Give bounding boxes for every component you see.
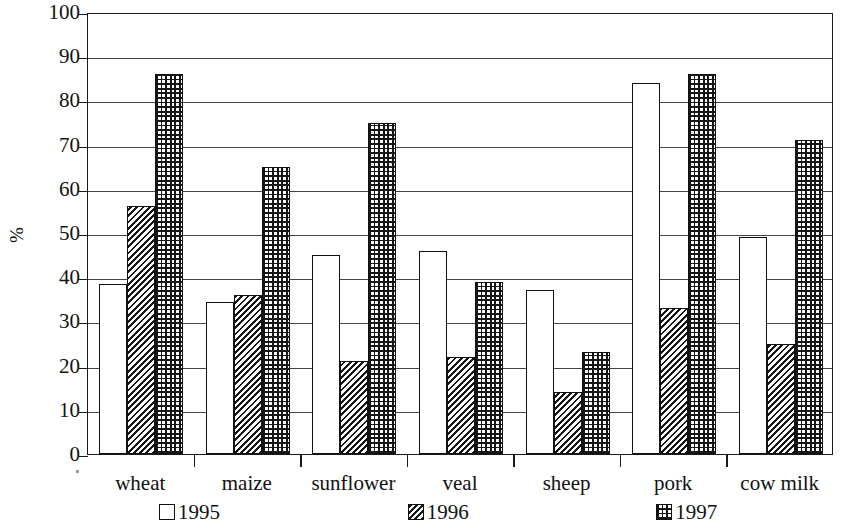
bar-sheep-1996	[554, 392, 582, 454]
y-axis-tick-labels: 1009080706050403020100	[24, 0, 80, 470]
bar-group	[408, 14, 515, 454]
bar-pork-1996	[660, 308, 688, 454]
bars-layer	[88, 14, 832, 454]
x-axis-label-cow-milk: cow milk	[714, 470, 845, 496]
legend-entry-1997[interactable]: 1997	[656, 500, 717, 524]
legend-entry-1996[interactable]: 1996	[408, 500, 469, 524]
y-axis-tick-mark	[79, 235, 88, 236]
y-axis-tick-label: 20	[24, 356, 80, 377]
bar-group	[621, 14, 728, 454]
bar-wheat-1996	[127, 206, 155, 454]
bar-chart: % 1009080706050403020100 wheatmaizesunfl…	[0, 0, 852, 528]
y-axis-tick-label: 80	[24, 90, 80, 111]
y-axis-tick-label: 0	[24, 444, 80, 465]
bar-sunflower-1997	[368, 123, 396, 455]
bar-pork-1997	[688, 74, 716, 454]
bar-cow-milk-1995	[739, 237, 767, 454]
bar-maize-1997	[262, 167, 290, 454]
y-axis-tick-mark	[79, 191, 88, 192]
bar-group	[727, 14, 834, 454]
bar-sunflower-1996	[340, 361, 368, 454]
y-axis-tick-label: 60	[24, 179, 80, 200]
bar-wheat-1995	[99, 284, 127, 454]
y-axis-tick-mark	[79, 368, 88, 369]
y-axis-tick-label: 10	[24, 400, 80, 421]
x-axis-separator	[407, 455, 408, 467]
y-axis-tick-label: 30	[24, 311, 80, 332]
legend-label: 1996	[427, 500, 469, 524]
y-axis-tick-mark	[79, 279, 88, 280]
y-axis-tick-mark	[79, 147, 88, 148]
y-axis-tick-mark	[79, 102, 88, 103]
scan-artifact-mark	[76, 470, 79, 473]
legend-label: 1997	[675, 500, 717, 524]
x-axis-separator	[300, 455, 301, 467]
bar-veal-1996	[447, 357, 475, 454]
plot-area	[87, 13, 833, 455]
bar-cow-milk-1996	[767, 344, 795, 455]
bar-wheat-1997	[155, 74, 183, 454]
legend-label: 1995	[178, 500, 220, 524]
x-axis-separator	[194, 455, 195, 467]
bar-group	[195, 14, 302, 454]
y-axis-tick-label: 90	[24, 46, 80, 67]
y-axis-tick-mark	[79, 323, 88, 324]
bar-veal-1997	[475, 282, 503, 454]
legend-entry-1995[interactable]: 1995	[159, 500, 220, 524]
bar-group	[514, 14, 621, 454]
bar-sheep-1995	[526, 290, 554, 454]
bar-pork-1995	[632, 83, 660, 454]
y-axis-tick-label: 70	[24, 135, 80, 156]
x-axis-category-labels: wheatmaizesunflowervealsheepporkcow milk	[87, 470, 852, 500]
bar-maize-1995	[206, 302, 234, 454]
y-axis-tick-label: 50	[24, 223, 80, 244]
y-axis-tick-mark	[79, 14, 88, 15]
x-axis-separator	[726, 455, 727, 467]
chart-legend: 199519961997	[87, 500, 833, 528]
bar-group	[88, 14, 195, 454]
y-axis-tick-mark	[79, 412, 88, 413]
x-axis-separator	[620, 455, 621, 467]
y-axis-tick-label: 100	[24, 2, 80, 23]
y-axis-tick-mark	[79, 58, 88, 59]
x-axis-separators	[87, 455, 833, 467]
bar-cow-milk-1997	[795, 140, 823, 454]
x-axis-separator	[513, 455, 514, 467]
y-axis-tick-label: 40	[24, 267, 80, 288]
legend-swatch-blank-icon	[159, 504, 175, 520]
bar-sheep-1997	[582, 352, 610, 454]
bar-sunflower-1995	[312, 255, 340, 454]
bar-group	[301, 14, 408, 454]
bar-veal-1995	[419, 251, 447, 454]
legend-swatch-diagonal-hatch-icon	[408, 504, 424, 520]
bar-maize-1996	[234, 295, 262, 454]
legend-swatch-grid-crosshatch-icon	[656, 504, 672, 520]
